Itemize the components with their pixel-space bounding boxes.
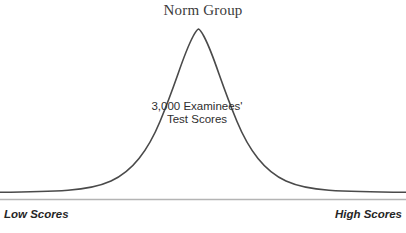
axis-label-high-scores: High Scores bbox=[335, 207, 402, 221]
annotation-line-1: 3,000 Examinees' bbox=[117, 100, 277, 113]
curve-annotation: 3,000 Examinees' Test Scores bbox=[117, 100, 277, 125]
axis-label-low-scores: Low Scores bbox=[4, 207, 69, 221]
annotation-line-2: Test Scores bbox=[117, 113, 277, 126]
norm-group-figure: Norm Group 3,000 Examinees' Test Scores … bbox=[0, 0, 406, 233]
